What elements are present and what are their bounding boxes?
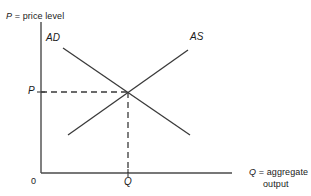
y-axis-tick-label-p: P (28, 85, 35, 96)
origin-label: 0 (31, 176, 36, 187)
x-axis-label: Q = aggregateoutput (249, 166, 308, 190)
y-axis-label: P = price level (6, 11, 64, 22)
x-axis-label-text-line2: output (249, 178, 308, 190)
as-curve-label: AS (190, 31, 204, 42)
y-axis-label-text: = price level (12, 11, 64, 21)
ad-curve-label: AD (46, 32, 60, 43)
x-axis-tick-label-q: Q (124, 176, 132, 187)
aggregate-demand-supply-figure: P = price level Q = aggregateoutput AD A… (0, 0, 311, 196)
x-axis-label-text: = aggregate (256, 167, 308, 177)
